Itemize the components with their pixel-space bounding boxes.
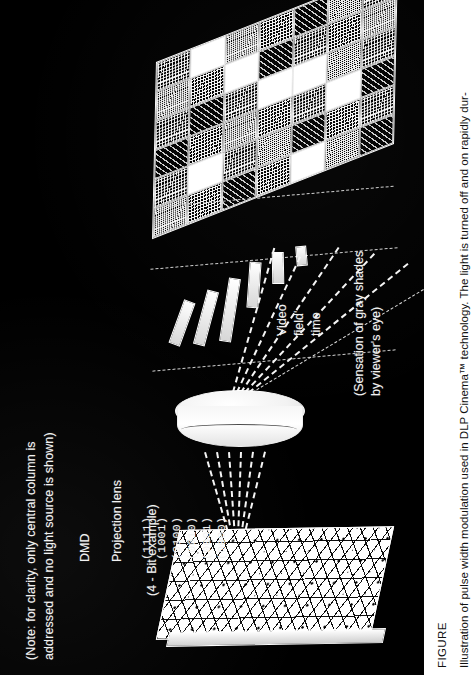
figure-caption-strip: FIGURE Illustration of pulse width modul…: [424, 0, 473, 675]
caption-figure-word: FIGURE: [436, 622, 448, 668]
bit-code: (0010): [185, 517, 198, 560]
clarity-note-line-2: addressed and no light source is shown): [42, 432, 56, 660]
video-field-label-line-1: Video: [275, 304, 289, 336]
pulse-bar-2: [193, 289, 219, 346]
caption-text: Illustration of pulse width modulation u…: [458, 92, 470, 668]
bit-code: (0000): [215, 517, 228, 560]
dmd-label: DMD: [78, 534, 92, 562]
dmd-substrate-edge: [166, 628, 386, 647]
bit-code: (1111): [140, 517, 153, 560]
pulse-bar-5: [272, 252, 285, 284]
lens-seam: [181, 424, 297, 435]
sensation-label-line-1: (Sensation of gray shades: [352, 251, 366, 396]
bit-code: (0001): [200, 517, 213, 560]
bit-code: (1001): [155, 517, 168, 560]
pulse-bar-1: [168, 299, 195, 346]
pulse-bar-3: [219, 277, 241, 342]
projection-lens: [175, 390, 303, 452]
clarity-note-line-1: (Note: for clarity, only central column …: [24, 441, 38, 660]
projection-lens-label: Projection lens: [110, 480, 124, 562]
bit-code: (0100): [170, 517, 183, 560]
figure-page: (Note: for clarity, only central column …: [0, 0, 473, 675]
figure-plate: (Note: for clarity, only central column …: [0, 0, 424, 675]
video-field-label-line-2: field': [292, 311, 306, 336]
video-field-label-line-3: time: [309, 312, 323, 336]
sensation-label-line-2: by viewer's eye): [369, 307, 383, 396]
